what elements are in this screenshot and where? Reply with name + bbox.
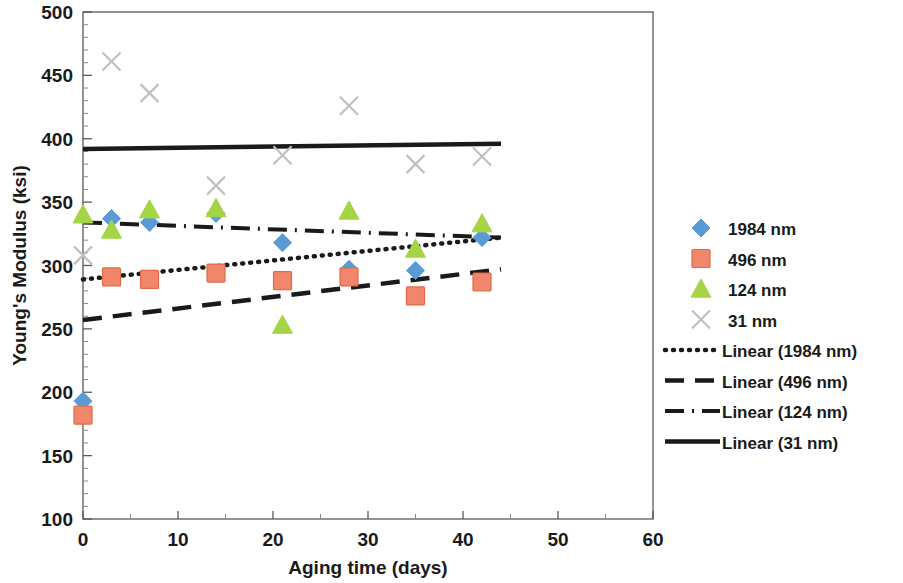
data-point-triangle <box>472 214 492 232</box>
x-tick-label: 30 <box>357 529 378 550</box>
data-point-square <box>103 268 121 286</box>
data-point-square <box>74 406 92 424</box>
x-tick-label: 20 <box>262 529 283 550</box>
data-point-square <box>141 270 159 288</box>
y-tick-label: 100 <box>41 509 73 530</box>
data-point-triangle <box>102 220 122 238</box>
y-tick-label: 200 <box>41 382 73 403</box>
youngs-modulus-scatter-chart: 1001502002503003504004505000102030405060… <box>0 0 903 583</box>
y-tick-label: 150 <box>41 446 73 467</box>
legend-label: 124 nm <box>728 281 787 300</box>
legend-label: Linear (1984 nm) <box>722 342 857 361</box>
y-tick-label: 500 <box>41 2 73 23</box>
data-point-square <box>207 264 225 282</box>
y-tick-label: 250 <box>41 319 73 340</box>
y-tick-label: 400 <box>41 129 73 150</box>
chart-figure: 1001502002503003504004505000102030405060… <box>0 0 903 583</box>
legend-label: Linear (496 nm) <box>722 373 848 392</box>
legend-marker-diamond <box>692 219 710 237</box>
data-point-square <box>407 287 425 305</box>
x-tick-label: 50 <box>547 529 568 550</box>
data-point-diamond <box>274 234 292 252</box>
data-point-triangle <box>339 201 359 219</box>
data-point-square <box>274 272 292 290</box>
legend-label: Linear (31 nm) <box>722 434 838 453</box>
plot-area-border <box>83 12 653 519</box>
x-tick-label: 60 <box>642 529 663 550</box>
data-point-triangle <box>273 315 293 333</box>
data-point-triangle <box>140 200 160 218</box>
x-tick-label: 0 <box>78 529 89 550</box>
legend-label: 31 nm <box>728 312 777 331</box>
legend-marker-triangle <box>691 279 711 297</box>
legend-label: 1984 nm <box>728 220 796 239</box>
data-point-triangle <box>73 205 93 223</box>
data-point-square <box>340 268 358 286</box>
trendline-solid <box>83 144 501 149</box>
y-tick-label: 450 <box>41 65 73 86</box>
y-tick-label: 300 <box>41 256 73 277</box>
x-tick-label: 40 <box>452 529 473 550</box>
y-tick-label: 350 <box>41 192 73 213</box>
data-point-square <box>473 273 491 291</box>
legend-marker-square <box>692 250 710 268</box>
y-axis-title: Young's Modulus (ksi) <box>9 165 30 366</box>
x-axis-title: Aging time (days) <box>288 557 447 578</box>
legend-label: 496 nm <box>728 251 787 270</box>
x-tick-label: 10 <box>167 529 188 550</box>
legend-label: Linear (124 nm) <box>722 403 848 422</box>
data-point-triangle <box>206 198 226 216</box>
